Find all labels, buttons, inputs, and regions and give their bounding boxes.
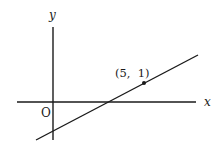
origin-label: O	[41, 106, 51, 120]
x-axis-label: x	[204, 95, 211, 109]
point-marker	[142, 81, 146, 85]
y-axis-label: y	[48, 8, 56, 22]
coordinate-diagram: y x O (5, 1)	[0, 0, 224, 151]
point-label: (5, 1)	[115, 66, 150, 80]
